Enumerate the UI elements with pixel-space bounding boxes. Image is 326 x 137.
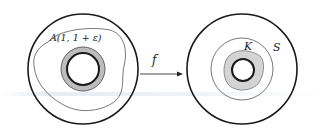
left-figure: A(1, 1 + ε) [28,14,138,124]
annulus-label: A(1, 1 + ε) [49,32,102,43]
curve-label: S [273,41,281,54]
map-label: f [151,53,159,67]
map-arrow: f [140,53,183,77]
left-inner-circle [67,53,99,85]
right-inner-circle [232,59,254,81]
right-figure: K S [187,14,297,124]
diagram-canvas: A(1, 1 + ε) f K S [0,0,326,137]
compact-label: K [243,40,253,53]
arrow-head-icon [177,72,183,77]
